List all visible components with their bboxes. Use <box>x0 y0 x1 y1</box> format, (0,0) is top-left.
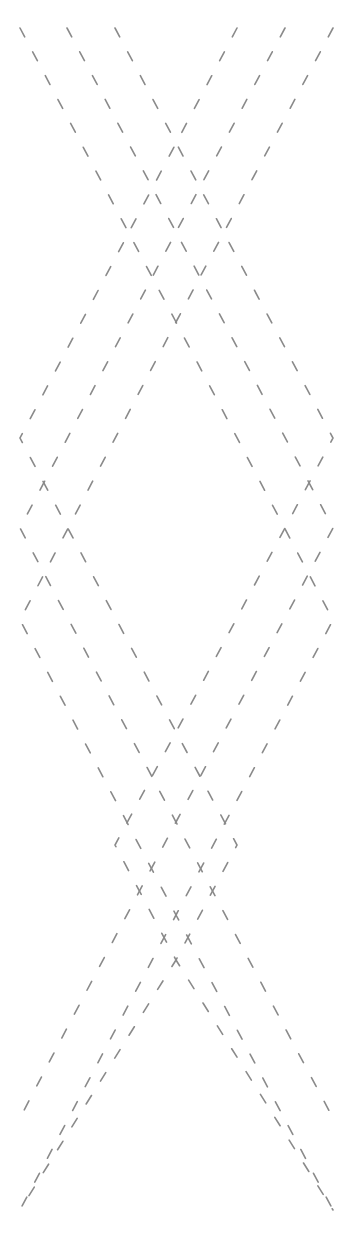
strand-inner-mirror <box>20 28 237 1210</box>
dashed-diamond-pattern <box>0 0 360 1251</box>
strand-inner <box>115 28 333 1210</box>
strand-middle-mirror <box>20 28 333 1118</box>
strand-middle <box>20 28 333 1118</box>
strand-outer-mirror <box>20 28 333 1210</box>
strand-outer <box>20 28 333 1210</box>
